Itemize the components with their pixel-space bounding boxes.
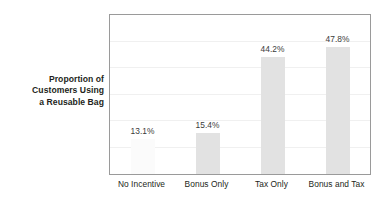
bar-slot: 15.4% [175,15,240,174]
bar[interactable] [196,133,220,174]
plot-area: 13.1%15.4%44.2%47.8% [109,14,371,175]
bar-slot: 44.2% [240,15,305,174]
category-label: Bonus and Tax [304,179,369,189]
bar-value-label: 13.1% [130,126,154,136]
bar-slot: 13.1% [110,15,175,174]
bar-chart-figure: Proportion of Customers Using a Reusable… [0,0,390,205]
bar[interactable] [326,47,350,174]
y-axis-label-line-1: Proportion of [8,74,104,85]
category-label: Tax Only [239,179,304,189]
bar-value-label: 44.2% [260,44,284,54]
bar-value-label: 15.4% [195,120,219,130]
category-axis: No IncentiveBonus OnlyTax OnlyBonus and … [109,179,371,195]
y-axis-label-line-3: a Reusable Bag [8,97,104,108]
y-axis-label: Proportion of Customers Using a Reusable… [8,74,104,108]
bar-value-label: 47.8% [325,34,349,44]
bar[interactable] [131,139,155,174]
category-label: No Incentive [109,179,174,189]
bar[interactable] [261,57,285,174]
y-axis-label-line-2: Customers Using [8,85,104,96]
category-label: Bonus Only [174,179,239,189]
bar-slot: 47.8% [305,15,370,174]
bars-group: 13.1%15.4%44.2%47.8% [110,15,370,174]
